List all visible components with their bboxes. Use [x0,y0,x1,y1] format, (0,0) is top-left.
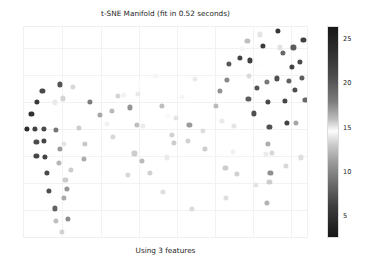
scatter-point [54,218,59,223]
scatter-point [239,46,244,51]
scatter-point [125,172,130,177]
scatter-point [104,121,109,126]
scatter-point [297,59,302,64]
scatter-point [286,78,291,83]
colorbar: 510152025 [327,26,339,238]
scatter-point [70,84,75,89]
scatter-point [63,178,68,183]
scatter-point [268,170,273,175]
scatter-plot-axes [23,26,308,238]
scatter-point [298,155,303,160]
scatter-point [291,45,296,50]
scatter-point [153,73,158,78]
scatter-point [53,206,58,211]
scatter-point [258,32,263,37]
scatter-point [247,73,252,78]
scatter-point [299,75,304,80]
scatter-point [217,88,222,93]
scatter-point [289,64,294,69]
scatter-point [283,99,288,104]
scatter-point [57,147,62,152]
colorbar-gradient [327,26,339,238]
scatter-point [265,99,270,104]
scatter-point [235,171,240,176]
scatter-point [246,96,251,101]
scatter-point [34,153,39,158]
chart-caption: Using 3 features [23,246,308,256]
scatter-point [166,113,171,118]
scatter-point [132,151,137,156]
scatter-point [164,155,169,160]
scatter-point [231,123,236,128]
scatter-point [61,196,66,201]
scatter-point [159,103,164,108]
scatter-point [171,140,176,145]
scatter-point [60,96,65,101]
scatter-point [32,126,37,131]
scatter-point [225,77,230,82]
scatter-point [134,122,139,127]
scatter-point [54,127,59,132]
scatter-point [253,183,258,188]
scatter-point [190,206,195,211]
scatter-point [277,45,282,50]
scatter-point [267,179,272,184]
scatter-point [110,108,115,113]
scatter-point [260,61,265,66]
scatter-points-layer [24,27,307,237]
scatter-point [122,92,127,97]
scatter-point [281,50,286,55]
scatter-point [53,100,58,105]
scatter-point [42,126,47,131]
scatter-point [111,134,116,139]
scatter-point [68,167,73,172]
scatter-point [245,38,250,43]
scatter-point [147,170,152,175]
scatter-point [40,88,45,93]
scatter-point [44,170,49,175]
scatter-point [274,76,279,81]
scatter-point [224,196,229,201]
scatter-point [219,118,224,123]
scatter-point [58,82,63,87]
scatter-point [264,201,269,206]
scatter-point [173,115,178,120]
figure-canvas: t-SNE Manifold (fit in 0.52 seconds) 510… [0,0,366,269]
scatter-point [293,87,298,92]
scatter-point [61,141,66,146]
scatter-point [139,158,144,163]
scatter-point [192,76,197,81]
scatter-point [34,139,39,144]
colorbar-tick-label: 5 [343,212,347,219]
scatter-point [294,121,299,126]
scatter-point [127,105,132,110]
scatter-point [81,156,86,161]
scatter-point [230,149,235,154]
scatter-point [248,58,253,63]
scatter-point [265,141,270,146]
scatter-point [251,111,256,116]
scatter-point [43,154,48,159]
scatter-point [264,79,269,84]
scatter-point [180,94,185,99]
scatter-point [82,141,87,146]
scatter-point [98,112,103,117]
scatter-point [303,97,308,102]
scatter-point [275,28,280,33]
colorbar-tick-label: 25 [343,36,351,43]
scatter-point [187,122,192,127]
scatter-point [226,61,231,66]
scatter-point [77,126,82,131]
scatter-point [203,147,208,152]
page-title: t-SNE Manifold (fit in 0.52 seconds) [23,9,308,19]
scatter-point [260,43,265,48]
scatter-point [136,82,141,87]
scatter-point [185,139,190,144]
scatter-point [284,121,289,126]
scatter-point [254,86,259,91]
scatter-point [223,165,228,170]
scatter-point [66,216,71,221]
scatter-point [169,132,174,137]
scatter-point [88,99,93,104]
colorbar-tick-label: 10 [343,168,351,175]
